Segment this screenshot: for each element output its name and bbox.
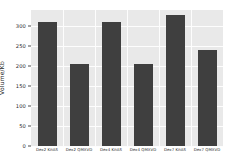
x-axis-ticks: Dex2 KitASDex2 QMXVDDex4 KitASDex4 QMXVD… [31, 147, 223, 163]
bar-series [31, 10, 223, 146]
x-tick-label: Dex2 KitAS [36, 147, 58, 163]
y-tick-label: 300 [16, 23, 26, 29]
bar [70, 64, 89, 146]
bar-slot [95, 10, 127, 146]
x-tick-slot: Dex2 KitAS [31, 147, 63, 163]
bar [38, 22, 57, 146]
bar [134, 64, 153, 146]
plot-panel [31, 10, 223, 146]
y-tick-label: 150 [16, 83, 26, 89]
bar-slot [127, 10, 159, 146]
x-tick-slot: Dex7 QMXVD [191, 147, 223, 163]
x-tick-slot: Dex2 QMXVD [63, 147, 95, 163]
bar [166, 15, 185, 146]
x-tick-label: Dex4 QMXVD [130, 147, 157, 163]
y-axis-ticks: 050100150200250300 [0, 10, 31, 146]
bar-slot [191, 10, 223, 146]
x-tick-slot: Dex7 KitAS [159, 147, 191, 163]
bar [198, 50, 217, 146]
x-tick-slot: Dex4 KitAS [95, 147, 127, 163]
bar-slot [159, 10, 191, 146]
x-tick-label: Dex7 QMXVD [194, 147, 221, 163]
bar-slot [63, 10, 95, 146]
y-tick-label: 250 [16, 43, 26, 49]
y-tick-label: 200 [16, 63, 26, 69]
y-tick-label: 100 [16, 103, 26, 109]
x-tick-label: Dex7 KitAS [164, 147, 186, 163]
bar [102, 22, 121, 146]
y-tick-label: 0 [23, 143, 26, 149]
x-tick-slot: Dex4 QMXVD [127, 147, 159, 163]
x-tick-label: Dex4 KitAS [100, 147, 122, 163]
bar-chart-figure: Volume/Kb 050100150200250300 Dex2 KitASD… [0, 0, 230, 165]
bar-slot [31, 10, 63, 146]
y-tick-label: 50 [19, 123, 26, 129]
x-tick-label: Dex2 QMXVD [66, 147, 93, 163]
